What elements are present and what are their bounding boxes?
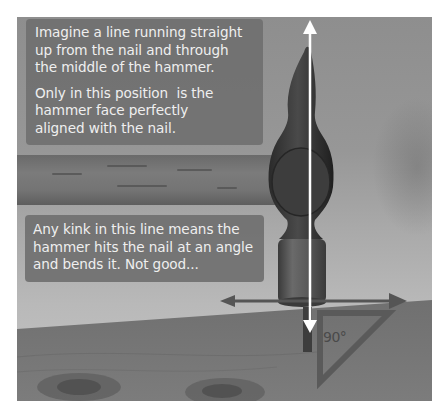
callout-line: Any kink in this line means the — [33, 221, 240, 237]
callout-paragraph-1: Imagine a line running straight up from … — [35, 24, 263, 77]
callout-line: up from the nail and through — [35, 42, 228, 58]
angle-label: 90° — [323, 329, 346, 345]
callout-line: aligned with the nail. — [35, 120, 176, 136]
callout-line: Imagine a line running straight — [35, 24, 242, 40]
callout-paragraph-2: Only in this position is the hammer face… — [35, 85, 263, 138]
callout-line: and bends it. Not good... — [33, 256, 199, 272]
callout-line: hammer hits the nail at an angle — [33, 239, 253, 255]
bottom-callout: Any kink in this line means the hammer h… — [25, 215, 264, 282]
top-callout: Imagine a line running straight up from … — [26, 19, 263, 145]
callout-line: hammer face perfectly — [35, 102, 188, 118]
callout-line: the middle of the hammer. — [35, 59, 214, 75]
hammer-photo: 90° Imagine a line running straight up f… — [17, 17, 432, 401]
callout-paragraph: Any kink in this line means the hammer h… — [33, 221, 264, 274]
callout-line: Only in this position is the — [35, 85, 213, 101]
